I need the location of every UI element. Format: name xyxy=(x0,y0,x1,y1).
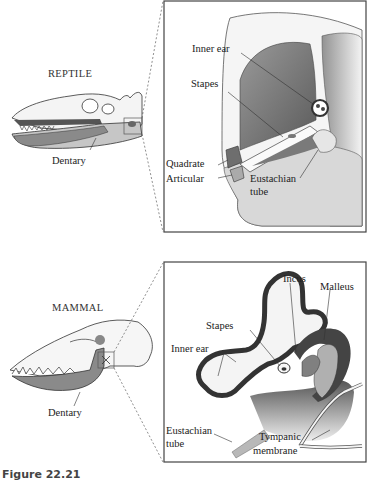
reptile-quadrate-label: Quadrate xyxy=(166,159,204,170)
zoom-connector-top xyxy=(142,1,163,118)
mammal-eustachian-label-2: tube xyxy=(166,439,184,450)
reptile-dentary-label: Dentary xyxy=(52,156,86,167)
mammal-tympanic-label-1: Tympanic xyxy=(259,432,301,443)
figure-caption: Figure 22.21 xyxy=(2,468,81,481)
reptile-eustachian-label-1: Eustachian xyxy=(250,174,296,185)
mammal-title: MAMMAL xyxy=(52,302,103,313)
mammal-malleus-label: Malleus xyxy=(320,282,354,293)
zoom-connector-bottom xyxy=(114,368,163,462)
zoom-connector-bottom xyxy=(142,134,163,232)
reptile-inner-ear-label: Inner ear xyxy=(192,44,230,55)
mammal-stapes-label: Stapes xyxy=(206,321,233,332)
reptile-stapes-label: Stapes xyxy=(191,79,218,90)
reptile-articular-label: Articular xyxy=(166,174,204,185)
reptile-title: REPTILE xyxy=(48,68,92,79)
mammal-eustachian-label-1: Eustachian xyxy=(166,426,212,437)
mammal-incus-label: Incus xyxy=(283,274,306,285)
mammal-tympanic-label-2: membrane xyxy=(253,446,297,457)
mammal-inner-ear-label: Inner ear xyxy=(171,344,209,355)
mammal-skull xyxy=(10,320,152,406)
reptile-skull xyxy=(12,92,142,150)
reptile-eustachian-label-2: tube xyxy=(250,187,268,198)
mammal-dentary-label: Dentary xyxy=(48,408,82,419)
